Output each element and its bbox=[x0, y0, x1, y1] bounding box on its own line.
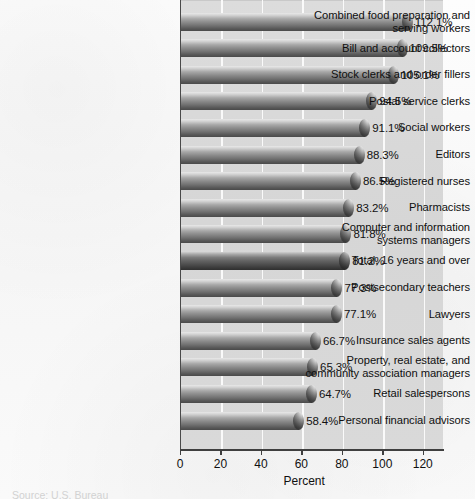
x-axis-title: Percent bbox=[284, 474, 325, 488]
bar bbox=[181, 385, 312, 403]
bar-body bbox=[181, 412, 299, 430]
bar-value-label: 77.1% bbox=[344, 308, 376, 320]
category-label-line: Postsecondary teachers bbox=[299, 281, 470, 294]
category-label-line: Lawyers bbox=[299, 308, 470, 321]
bar-value-label: 83.2% bbox=[356, 202, 388, 214]
bar-chart: Combined food preparation andserving wor… bbox=[0, 0, 475, 499]
x-tick-100 bbox=[382, 449, 383, 455]
bar-value-label: 94.5% bbox=[379, 95, 411, 107]
x-tick-label-40: 40 bbox=[241, 457, 281, 471]
x-tick-label-60: 60 bbox=[281, 457, 321, 471]
bar-value-label: 66.7% bbox=[323, 335, 355, 347]
category-label-line: Total, 16 years and over bbox=[299, 254, 470, 267]
category-label: Postsecondary teachers bbox=[299, 281, 475, 294]
category-label: Computer and informationsystems managers bbox=[299, 221, 475, 247]
plot-top-edge bbox=[181, 0, 443, 1]
bar-value-label: 64.7% bbox=[319, 388, 351, 400]
bar-value-label: 81.8% bbox=[353, 228, 385, 240]
x-tick-120 bbox=[423, 449, 424, 455]
x-tick-label-80: 80 bbox=[322, 457, 362, 471]
x-tick-label-20: 20 bbox=[200, 457, 240, 471]
bar bbox=[181, 412, 299, 430]
bar-body bbox=[181, 332, 316, 350]
category-label: Bill and account collectors bbox=[299, 42, 475, 55]
source-note: Source: U.S. Bureau bbox=[12, 489, 108, 499]
bar bbox=[181, 332, 316, 350]
bar-value-label: 109.5% bbox=[410, 42, 448, 54]
x-tick-20 bbox=[220, 449, 221, 455]
bar-body bbox=[181, 358, 313, 376]
category-label: Total, 16 years and over bbox=[299, 254, 475, 267]
x-tick-label-0: 0 bbox=[160, 457, 200, 471]
bar-value-label: 65.3% bbox=[320, 361, 352, 373]
bar-value-label: 86.5% bbox=[363, 175, 395, 187]
x-tick-label-120: 120 bbox=[403, 457, 443, 471]
bar-value-label: 58.4% bbox=[306, 415, 338, 427]
bar-value-label: 77.3% bbox=[344, 282, 376, 294]
x-tick-80 bbox=[342, 449, 343, 455]
bar-body bbox=[181, 385, 312, 403]
category-label: Stock clerks and order fillers bbox=[299, 68, 475, 81]
x-tick-0 bbox=[180, 449, 181, 455]
bar bbox=[181, 358, 313, 376]
bar-value-label: 81.2% bbox=[352, 255, 384, 267]
category-label: Lawyers bbox=[299, 308, 475, 321]
category-label-line: Stock clerks and order fillers bbox=[299, 68, 470, 81]
x-tick-label-100: 100 bbox=[362, 457, 402, 471]
bar-value-label: 105.1% bbox=[401, 69, 439, 81]
bar-value-label: 112.1% bbox=[415, 16, 453, 28]
bar-value-label: 88.3% bbox=[367, 149, 399, 161]
x-tick-40 bbox=[261, 449, 262, 455]
x-tick-60 bbox=[301, 449, 302, 455]
bar-value-label: 91.1% bbox=[372, 122, 404, 134]
